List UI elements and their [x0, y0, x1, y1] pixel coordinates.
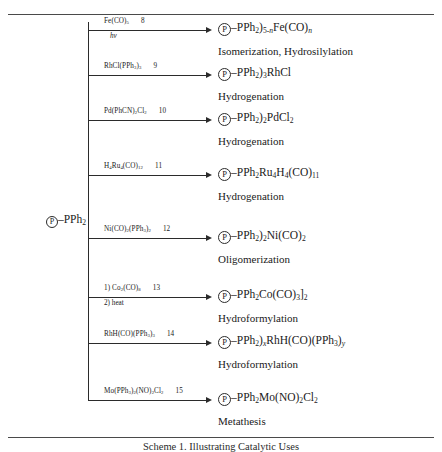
arrow-head-icon	[206, 340, 212, 346]
reaction-condition: hν	[110, 32, 117, 40]
reagent-label: Mo(PPh3)2(NO)2Cl215	[104, 387, 183, 395]
reagent-number: 11	[155, 162, 162, 170]
product-label: P–PPh2Co(CO)3]2	[218, 288, 308, 303]
product-label: P–PPh2Ru4H4(CO)11	[218, 166, 319, 181]
reaction-arrow	[88, 120, 206, 121]
reaction-arrow	[88, 238, 206, 239]
reagent-number: 15	[176, 387, 183, 395]
application-label: Isomerization, Hydrosilylation	[218, 45, 353, 57]
reagent-number: 13	[153, 284, 160, 292]
scheme-figure: P–PPh2 Fe(CO)58 hν P–PPh2)5-nFe(CO)n Iso…	[0, 0, 442, 452]
starting-material: P–PPh2	[8, 213, 86, 228]
arrow-head-icon	[206, 117, 212, 123]
product-label: P–PPh2)3RhCl	[218, 66, 291, 81]
top-rule	[8, 14, 434, 15]
reagent-number: 10	[159, 107, 166, 115]
polymer-support-icon: P	[218, 393, 231, 406]
reaction-arrow	[88, 175, 206, 176]
reagent-label: Fe(CO)58	[104, 17, 145, 25]
reagent-number: 9	[153, 62, 157, 70]
polymer-support-icon: P	[218, 231, 231, 244]
arrow-head-icon	[206, 72, 212, 78]
reagent-label: RhCl(PPh3)39	[104, 62, 157, 70]
polymer-support-icon: P	[218, 336, 231, 349]
bottom-rule	[8, 437, 434, 438]
arrow-head-icon	[206, 294, 212, 300]
polymer-support-icon: P	[46, 216, 58, 228]
reaction-arrow	[88, 343, 206, 344]
polymer-support-icon: P	[218, 23, 231, 36]
reagent-number: 14	[167, 330, 174, 338]
polymer-support-icon: P	[218, 168, 231, 181]
product-label: P–PPh2)5-nFe(CO)n	[218, 21, 312, 36]
arrow-head-icon	[206, 397, 212, 403]
application-label: Hydroformylation	[218, 312, 298, 324]
reagent-label: 1) Co2(CO)813	[104, 284, 160, 292]
product-label: P–PPh2)2PdCl2	[218, 111, 294, 126]
product-label: P–PPh2)2Ni(CO)2	[218, 229, 306, 244]
reagent-label: RhH(CO)(PPh3)314	[104, 330, 174, 338]
arrow-head-icon	[206, 172, 212, 178]
polymer-support-icon: P	[218, 290, 231, 303]
application-label: Oligomerization	[218, 253, 290, 265]
reagent-label: H4Ru4(CO)1211	[104, 162, 162, 170]
reagent-label: Pd(PhCN)2Cl210	[104, 107, 166, 115]
polymer-support-icon: P	[218, 68, 231, 81]
application-label: Hydroformylation	[218, 358, 298, 370]
reaction-arrow	[88, 297, 206, 298]
arrow-head-icon	[206, 27, 212, 33]
reagent-number: 8	[141, 17, 145, 25]
application-label: Hydrogenation	[218, 190, 284, 202]
product-label: P–PPh2Mo(NO)2Cl2	[218, 391, 318, 406]
reagent-number: 12	[163, 225, 170, 233]
polymer-support-icon: P	[218, 113, 231, 126]
arrow-head-icon	[206, 235, 212, 241]
reaction-arrow	[88, 400, 206, 401]
reaction-arrow	[88, 75, 206, 76]
figure-caption: Scheme 1. Illustrating Catalytic Uses	[0, 441, 442, 452]
application-label: Hydrogenation	[218, 90, 284, 102]
application-label: Hydrogenation	[218, 135, 284, 147]
reaction-arrow	[88, 30, 206, 31]
trunk-line	[88, 22, 89, 401]
reagent-label: Ni(CO)2(PPh3)212	[104, 225, 170, 233]
product-label: P–PPh2)xRhH(CO)(PPh3)y	[218, 334, 345, 349]
reaction-condition: 2) heat	[104, 299, 124, 307]
application-label: Metathesis	[218, 415, 266, 427]
